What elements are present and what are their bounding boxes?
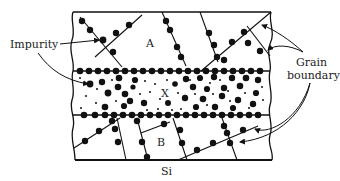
grain-boundary-diagram: Impurity A X B Si Grain boundary	[0, 0, 340, 181]
region-x-label: X	[161, 87, 169, 100]
segregated-impurity-dots-lower	[81, 112, 262, 119]
gb-arrow-1	[262, 25, 303, 52]
region-b-label: B	[157, 136, 165, 149]
left-wavy-edge	[71, 12, 75, 160]
grain-boundary-label-line2: boundary	[287, 69, 340, 82]
segregated-impurity-dots-upper	[77, 68, 264, 75]
region-a-label: A	[145, 37, 155, 50]
impurity-arrow-top	[60, 40, 99, 44]
grain-boundary-label-line1: Grain	[296, 56, 327, 69]
substrate-label: Si	[161, 165, 173, 178]
grain-boundary-impurities-region-a	[79, 18, 263, 63]
impurity-label: Impurity	[10, 38, 59, 51]
right-wavy-edge	[269, 12, 273, 160]
gb-arrow-3	[255, 83, 310, 130]
grain-boundaries-region-a	[80, 12, 271, 71]
